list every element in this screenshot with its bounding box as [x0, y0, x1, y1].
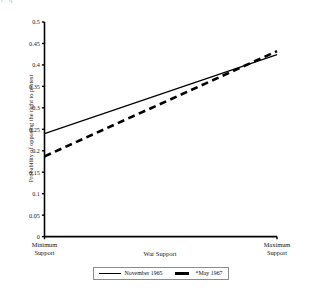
legend-label: November 1965 [124, 270, 162, 277]
legend-entry-1: November 1965 [99, 270, 162, 277]
legend-entries: November 1965*May 1967 [94, 268, 228, 279]
legend-label: *May 1967 [196, 270, 223, 277]
legend-swatch-dashed-icon [171, 272, 193, 275]
x-tick-label-line1: Maximum [264, 241, 291, 248]
x-tick-label-minimum: MinimumSupport [16, 241, 74, 257]
series-line-2 [45, 51, 278, 156]
x-tick-label-line2: Support [248, 249, 306, 257]
x-axis-title: War Support [110, 250, 210, 258]
legend-entry-2: *May 1967 [171, 270, 223, 277]
chart-figure: r q Probability of opposing the right to… [0, 0, 313, 295]
legend-swatch-solid-icon [99, 272, 121, 275]
data-series-layer [45, 51, 278, 156]
x-tick-label-line1: Minimum [32, 241, 58, 248]
x-tick-label-line2: Support [16, 249, 74, 257]
chart-legend: November 1965*May 1967 [93, 267, 229, 280]
x-tick-label-maximum: MaximumSupport [248, 241, 306, 257]
series-line-1 [45, 55, 278, 134]
